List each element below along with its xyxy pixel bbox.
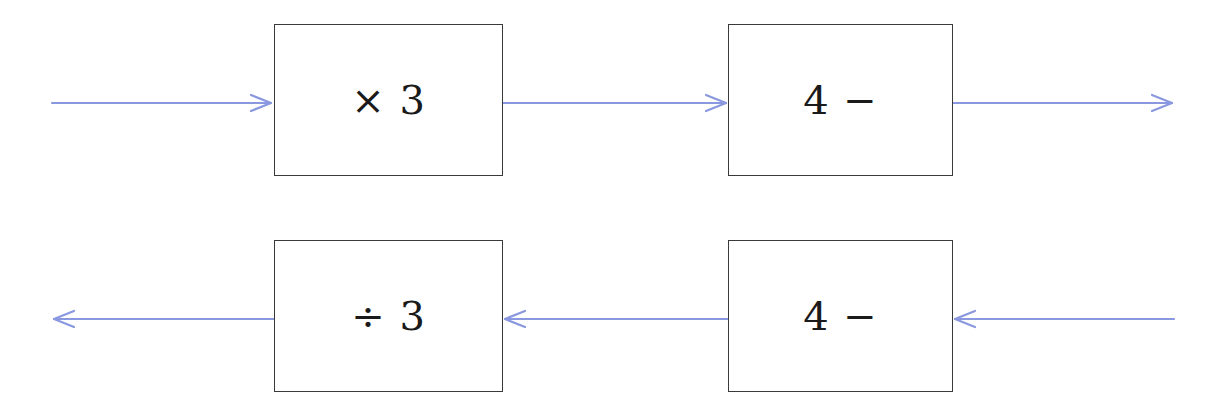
arrow-top-output: [953, 95, 1172, 111]
operation-box-4-minus-bottom: 4 −: [728, 240, 953, 392]
operation-box-multiply-3: × 3: [274, 24, 503, 176]
arrow-bottom-input: [955, 311, 1174, 327]
arrow-top-input: [52, 95, 271, 111]
operation-label: 4 −: [803, 293, 878, 339]
operation-box-4-minus-top: 4 −: [728, 24, 953, 176]
arrow-bottom-output: [54, 311, 274, 327]
arrow-bottom-middle: [505, 311, 728, 327]
operation-label: 4 −: [803, 77, 878, 123]
operation-label: ÷ 3: [351, 293, 426, 339]
operation-box-divide-3: ÷ 3: [274, 240, 503, 392]
operation-label: × 3: [351, 77, 426, 123]
arrow-top-middle: [503, 95, 726, 111]
flow-arrows: [0, 0, 1220, 413]
